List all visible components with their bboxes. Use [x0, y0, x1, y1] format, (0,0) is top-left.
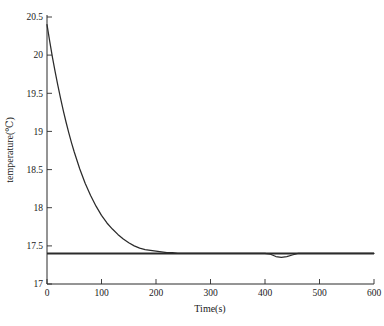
y-tick-labels: 17 17.5 18 18.5 19 19.5 20 20.5 [26, 12, 43, 289]
x-tick-label: 400 [258, 288, 273, 298]
x-tick-label: 200 [149, 288, 164, 298]
x-tick-label: 100 [94, 288, 109, 298]
y-tick-label: 19 [34, 127, 44, 137]
x-axis-title: Time(s) [194, 303, 225, 315]
x-tick-label: 0 [45, 288, 50, 298]
temperature-curve [47, 25, 374, 258]
y-tick-label: 19.5 [26, 89, 43, 99]
y-tick-label: 20.5 [26, 12, 43, 22]
y-tick-label: 17.5 [26, 241, 43, 251]
y-tick-marks [47, 17, 52, 284]
y-tick-label: 18.5 [26, 165, 43, 175]
y-tick-label: 20 [34, 50, 44, 60]
chart-canvas: 17 17.5 18 18.5 19 19.5 20 20.5 0 100 20… [0, 0, 384, 326]
x-tick-label: 600 [367, 288, 382, 298]
x-tick-label: 500 [312, 288, 327, 298]
x-tick-labels: 0 100 200 300 400 500 600 [45, 288, 382, 298]
x-tick-label: 300 [203, 288, 218, 298]
y-tick-label: 18 [34, 203, 44, 213]
y-tick-label: 17 [34, 279, 44, 289]
x-tick-marks [47, 279, 374, 284]
temperature-decay-chart: 17 17.5 18 18.5 19 19.5 20 20.5 0 100 20… [0, 0, 384, 326]
y-axis-title: temperature(℃) [4, 117, 16, 183]
